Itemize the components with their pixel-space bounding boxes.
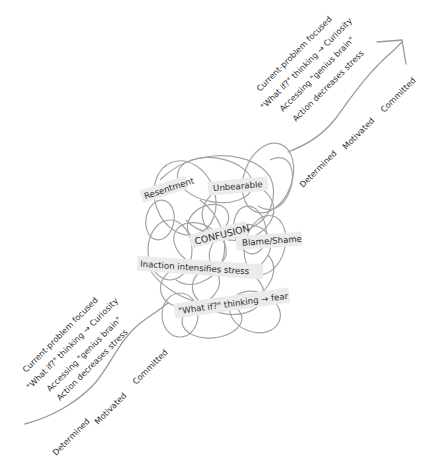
- start-state-committed: Committed: [130, 347, 169, 386]
- label-resentment: Resentment: [139, 173, 196, 203]
- end-section-items: Current-problem focused "What if?" think…: [254, 14, 365, 123]
- start-state-motivated: Motivated: [92, 390, 128, 426]
- end-state-determined: Determined: [297, 148, 338, 189]
- label-unbearable: Unbearable: [208, 177, 269, 196]
- end-state-motivated: Motivated: [340, 115, 376, 151]
- start-section-items: Current-problem focused "What if?" think…: [20, 295, 129, 402]
- tangled-path-diagram: Resentment Unbearable CONFUSION Blame/Sh…: [0, 0, 434, 475]
- end-state-committed: Committed: [378, 75, 417, 114]
- start-state-determined: Determined: [50, 416, 91, 457]
- end-item-2: "What if?" thinking → Curiosity: [258, 16, 354, 112]
